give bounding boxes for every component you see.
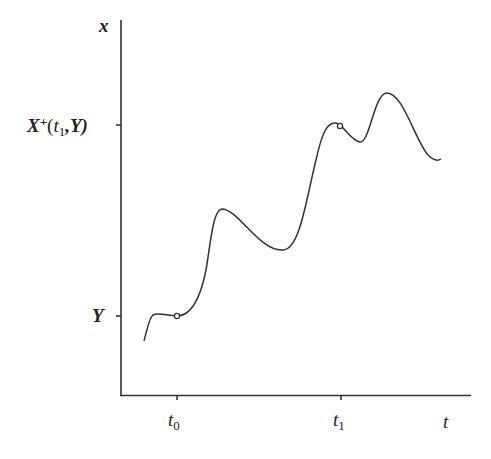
x-axis-label: t xyxy=(443,412,448,431)
x-plus-base: X xyxy=(27,115,40,136)
x-plus-rest: ,Y) xyxy=(65,115,88,136)
x-plus-sup: + xyxy=(40,114,47,129)
y-tick-label-Y: Y xyxy=(92,306,104,325)
t0-sub: 0 xyxy=(173,418,180,433)
y-tick-label-X-plus: X+(t1,Y) xyxy=(27,115,88,138)
chart-canvas xyxy=(0,0,491,459)
x-tick-label-t1: t1 xyxy=(333,410,345,432)
point-t0-Y xyxy=(174,313,179,318)
y-axis-label: x xyxy=(99,16,109,35)
solution-curve xyxy=(144,93,441,341)
t1-sub: 1 xyxy=(338,418,345,433)
x-tick-label-t0: t0 xyxy=(168,410,180,432)
point-t1-Xplus xyxy=(337,123,342,128)
